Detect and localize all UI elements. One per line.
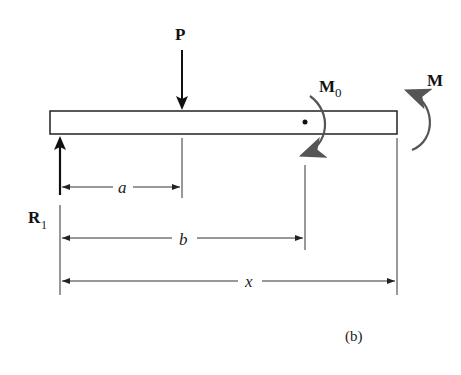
dimension-a-label: a xyxy=(118,178,127,197)
force-p-label: P xyxy=(175,25,185,44)
reaction-r1-arrow xyxy=(54,136,66,195)
dimension-b-label: b xyxy=(179,230,188,249)
reaction-r1-label: R xyxy=(28,208,41,227)
force-p-arrow xyxy=(176,50,188,110)
dimension-x-label: x xyxy=(244,272,253,291)
moment-m0-subscript: 0 xyxy=(335,85,342,100)
moment-m-label: M xyxy=(427,71,443,90)
beam xyxy=(50,111,397,134)
figure-caption: (b) xyxy=(345,328,363,345)
moment-application-point xyxy=(303,120,308,125)
moment-m0-label: M xyxy=(319,77,335,96)
beam-diagram: P R 1 M 0 M a b x (b) xyxy=(0,0,461,375)
reaction-r1-subscript: 1 xyxy=(41,218,47,232)
moment-m-arrow xyxy=(408,91,430,150)
